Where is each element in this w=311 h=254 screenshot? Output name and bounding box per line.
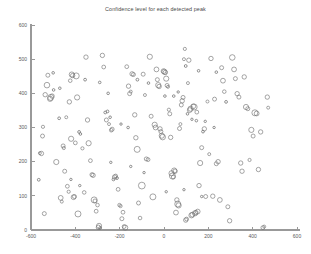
- scatter-point: [200, 195, 202, 197]
- scatter-point: [82, 191, 86, 195]
- scatter-point: [202, 127, 206, 131]
- scatter-point: [200, 146, 204, 150]
- scatter-point: [126, 84, 130, 88]
- scatter-point: [152, 122, 157, 127]
- scatter-point: [61, 144, 65, 148]
- scatter-point: [178, 127, 182, 131]
- scatter-point: [52, 89, 55, 92]
- scatter-point: [120, 217, 124, 221]
- scatter-point: [120, 123, 122, 125]
- scatter-point: [160, 134, 166, 140]
- scatter-point: [143, 94, 146, 97]
- scatter-point: [208, 153, 211, 156]
- scatter-point: [204, 195, 208, 199]
- scatter-point: [130, 165, 132, 167]
- scatter-point: [149, 114, 153, 118]
- scatter-point: [84, 78, 87, 81]
- scatter-point: [94, 209, 98, 213]
- scatter-point: [232, 67, 237, 72]
- scatter-point: [84, 55, 88, 59]
- scatter-point: [44, 82, 50, 88]
- scatter-point: [108, 123, 111, 126]
- scatter-point: [211, 194, 215, 198]
- axis-spines: [31, 24, 300, 230]
- scatter-point: [167, 108, 170, 111]
- scatter-point: [86, 141, 91, 146]
- scatter-point: [221, 78, 226, 83]
- scatter-point: [209, 56, 213, 60]
- scatter-point: [183, 47, 186, 50]
- y-axis-tick-label: 600: [2, 22, 27, 28]
- scatter-point: [54, 159, 59, 164]
- scatter-point: [217, 198, 222, 203]
- scatter-point: [242, 75, 246, 79]
- scatter-point: [67, 100, 71, 104]
- scatter-point: [110, 127, 114, 131]
- scatter-point: [147, 54, 152, 59]
- scatter-point: [184, 65, 187, 68]
- scatter-point: [43, 93, 47, 97]
- scatter-point: [150, 194, 156, 200]
- scatter-point: [197, 183, 201, 187]
- scatter-point: [165, 191, 167, 193]
- scatter-point: [134, 146, 140, 152]
- scatter-point: [240, 169, 244, 173]
- scatter-point: [69, 136, 74, 141]
- scatter-point: [41, 134, 45, 138]
- scatter-point: [93, 199, 97, 203]
- y-axis-tick-label: 200: [2, 158, 27, 164]
- scatter-plot-svg: [0, 0, 311, 254]
- scatter-point: [164, 76, 169, 81]
- scatter-point: [191, 118, 193, 120]
- axis-ticks: [31, 25, 297, 230]
- scatter-point: [133, 113, 137, 117]
- scatter-point: [65, 184, 69, 188]
- scatter-point: [158, 127, 162, 131]
- scatter-point: [96, 203, 100, 207]
- scatter-point: [222, 90, 226, 94]
- scatter-point: [154, 67, 159, 72]
- scatter-point: [81, 147, 84, 150]
- scatter-point: [249, 127, 254, 132]
- scatter-point: [186, 82, 189, 85]
- scatter-point: [206, 100, 209, 103]
- scatter-point: [60, 200, 63, 203]
- scatter-point: [204, 120, 206, 122]
- scatter-point: [79, 184, 81, 186]
- scatter-point: [225, 100, 228, 103]
- scatter-point: [63, 169, 67, 173]
- scatter-point: [100, 53, 104, 57]
- scatter-point: [85, 118, 89, 122]
- scatter-point: [155, 78, 159, 82]
- scatter-point: [42, 212, 46, 216]
- scatter-point: [121, 210, 125, 214]
- data-markers: [37, 47, 269, 230]
- scatter-point: [168, 112, 172, 116]
- scatter-point: [248, 158, 251, 161]
- scatter-point: [89, 159, 93, 163]
- scatter-point: [213, 126, 215, 128]
- scatter-point: [136, 78, 139, 81]
- scatter-point: [182, 58, 185, 61]
- y-axis-tick-label: 300: [2, 124, 27, 130]
- scatter-point: [138, 182, 145, 189]
- scatter-point: [91, 197, 97, 203]
- scatter-point: [98, 81, 101, 84]
- scatter-point: [195, 119, 198, 122]
- scatter-point: [65, 116, 68, 119]
- scatter-point: [179, 103, 183, 107]
- y-axis-tick-label: 400: [2, 90, 27, 96]
- scatter-point: [213, 97, 217, 101]
- y-axis-tick-label: 500: [2, 56, 27, 62]
- scatter-point: [251, 134, 255, 138]
- x-axis-tick-label: -600: [17, 233, 45, 239]
- scatter-point: [177, 91, 179, 93]
- scatter-point: [179, 123, 182, 126]
- scatter-point: [166, 85, 169, 88]
- figure-container: Confidence level for each detected peak …: [0, 0, 311, 254]
- scatter-point: [258, 130, 262, 134]
- scatter-point: [110, 161, 112, 163]
- scatter-point: [186, 113, 189, 116]
- scatter-point: [68, 79, 72, 83]
- scatter-point: [127, 126, 130, 129]
